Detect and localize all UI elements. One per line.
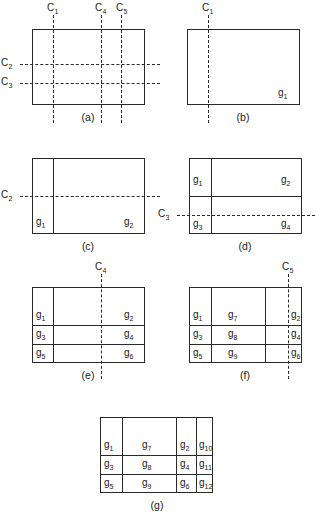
- panel-e-region-g3: g3: [36, 329, 45, 341]
- panel-g-region-g10: g10: [199, 440, 212, 452]
- panel-d-region-g4: g4: [281, 219, 290, 231]
- panel-e-cut-c4-line: [101, 274, 102, 379]
- panel-e-caption: (e): [68, 370, 108, 381]
- panel-e-region-g5: g5: [36, 348, 45, 360]
- panel-f-region-g5: g5: [193, 348, 202, 360]
- panel-f-region-g6: g6: [291, 348, 300, 360]
- panel-c-cut-c2-line: [20, 196, 160, 197]
- panel-e-region-g2: g2: [124, 310, 133, 322]
- panel-f-divider-horizontal-1: [189, 325, 302, 326]
- panel-d-label-c3: C3: [158, 209, 170, 221]
- panel-d-region-g2: g2: [281, 175, 290, 187]
- panel-g-divider-horizontal-2: [100, 474, 213, 475]
- panel-f-region-g7: g7: [228, 310, 237, 322]
- panel-g-region-g4: g4: [180, 459, 189, 471]
- panel-d-region-g3: g3: [193, 219, 202, 231]
- panel-e-region-g1: g1: [36, 310, 45, 322]
- panel-a-label-c4: C4: [95, 3, 107, 15]
- panel-d-caption: (d): [225, 241, 265, 252]
- panel-f-region-g3: g3: [193, 329, 202, 341]
- panel-a-label-c2: C2: [1, 58, 13, 70]
- panel-d-divider-horizontal: [189, 196, 302, 197]
- panel-f-region-g8: g8: [228, 329, 237, 341]
- panel-e-label-c4: C4: [95, 262, 107, 274]
- panel-a-cut-c5-line: [121, 15, 122, 123]
- panel-b-caption: (b): [223, 112, 263, 123]
- panel-e-region-g6: g6: [124, 348, 133, 360]
- panel-g-caption: (g): [137, 500, 177, 511]
- panel-e-region-g4: g4: [124, 329, 133, 341]
- panel-g-region-g1: g1: [104, 440, 113, 452]
- panel-g-divider-horizontal-1: [100, 455, 213, 456]
- panel-g-region-g7: g7: [142, 440, 151, 452]
- panel-a-cut-c2-line: [20, 64, 160, 65]
- panel-a-label-c3: C3: [1, 77, 13, 89]
- panel-a-label-c1: C1: [47, 3, 59, 15]
- panel-c-caption: (c): [68, 241, 108, 252]
- panel-f-cut-c5-line: [288, 274, 289, 379]
- panel-g-region-g6: g6: [180, 478, 189, 490]
- panel-a-caption: (a): [68, 112, 108, 123]
- panel-g-region-g8: g8: [142, 459, 151, 471]
- panel-b-label-c1: C1: [202, 3, 214, 15]
- panel-f-region-g1: g1: [193, 310, 202, 322]
- panel-c-label-c2: C2: [1, 190, 13, 202]
- panel-a-cut-c1-line: [53, 15, 54, 123]
- panel-f-label-c5: C5: [282, 262, 294, 274]
- panel-g-region-g9: g9: [142, 478, 151, 490]
- panel-a-cut-c4-line: [101, 15, 102, 123]
- panel-e-divider-horizontal-2: [32, 344, 145, 345]
- panel-c-region-g2: g2: [124, 217, 133, 229]
- panel-d-region-g1: g1: [193, 175, 202, 187]
- panel-d-cut-c3-line: [177, 215, 315, 216]
- panel-g-region-g5: g5: [104, 478, 113, 490]
- panel-b-region-g1: g1: [278, 88, 287, 100]
- panel-b-cut-c1-line: [208, 15, 209, 123]
- panel-g-region-g11: g11: [199, 459, 212, 471]
- panel-f-divider-horizontal-2: [189, 344, 302, 345]
- panel-e-divider-horizontal-1: [32, 325, 145, 326]
- panel-f-region-g9: g9: [228, 348, 237, 360]
- panel-g-region-g3: g3: [104, 459, 113, 471]
- panel-g-region-g2: g2: [180, 440, 189, 452]
- panel-c-region-g1: g1: [36, 217, 45, 229]
- panel-f-region-g2: g2: [291, 310, 300, 322]
- panel-a-rectangle: [32, 29, 145, 105]
- subdivision-figure: C1 C4 C5 C2 C3 (a) C1 g1 (b) C2 g1 g2 (c…: [0, 0, 315, 519]
- panel-f-region-g4: g4: [291, 329, 300, 341]
- panel-f-caption: (f): [225, 370, 265, 381]
- panel-a-cut-c3-line: [20, 83, 160, 84]
- panel-a-label-c5: C5: [116, 3, 128, 15]
- panel-g-region-g12: g12: [199, 478, 212, 490]
